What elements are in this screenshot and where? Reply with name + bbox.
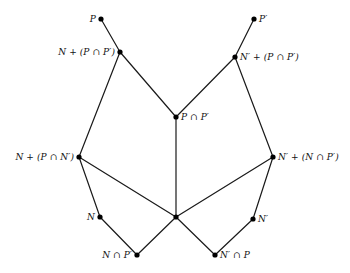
lattice-node-dot[interactable] [173, 214, 178, 219]
lattice-edges-layer [0, 0, 350, 273]
lattice-node-label: P′ [259, 15, 267, 24]
lattice-node-dot[interactable] [251, 16, 256, 21]
lattice-edge [79, 157, 100, 217]
lattice-node-dot[interactable] [97, 214, 102, 219]
lattice-node-dot[interactable] [232, 54, 237, 59]
lattice-node-dot[interactable] [250, 216, 255, 221]
lattice-node-dot[interactable] [212, 252, 217, 257]
lattice-node-label: N + (P ∩ P′) [58, 48, 115, 57]
lattice-edge [79, 52, 120, 157]
lattice-node-dot[interactable] [76, 154, 81, 159]
lattice-node-label: N′ ∩ P [220, 251, 250, 260]
lattice-node-dot[interactable] [173, 114, 178, 119]
lattice-edge [79, 157, 176, 217]
lattice-node-dot[interactable] [270, 154, 275, 159]
lattice-edge [176, 217, 215, 255]
lattice-node-label: N [87, 213, 95, 222]
lattice-edge [120, 52, 176, 117]
lattice-edge [176, 57, 235, 117]
lattice-node-label: P [90, 15, 96, 24]
lattice-node-dot[interactable] [134, 252, 139, 257]
lattice-node-label: N + (P ∩ N′) [15, 153, 74, 162]
lattice-edge [235, 57, 273, 157]
lattice-edge [176, 157, 273, 217]
lattice-node-label: N ∩ P′ [102, 251, 132, 260]
lattice-node-label: N′ + (N ∩ P′) [278, 153, 339, 162]
lattice-edge [253, 157, 273, 219]
lattice-node-label: N′ + (P ∩ P′) [240, 53, 299, 62]
lattice-node-label: P ∩ P′ [181, 113, 209, 122]
lattice-node-dot[interactable] [117, 49, 122, 54]
lattice-diagram: PP′N + (P ∩ P′)N′ + (P ∩ P′)P ∩ P′N + (P… [0, 0, 350, 273]
lattice-edge [137, 217, 176, 255]
lattice-node-label: N′ [258, 215, 268, 224]
lattice-node-dot[interactable] [98, 16, 103, 21]
